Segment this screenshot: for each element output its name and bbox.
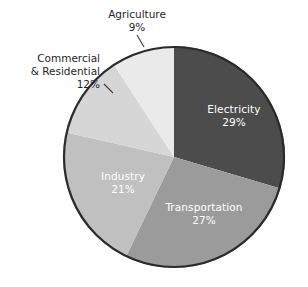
callout-label-commercial-residential: Commercial & Residential 12% [2,52,100,91]
callout-commercial-residential-line2: & Residential [2,65,100,78]
callout-agriculture-name: Agriculture [92,8,182,21]
callout-commercial-residential-value: 12% [2,78,100,91]
callout-label-agriculture: Agriculture 9% [92,8,182,34]
pie-chart-figure: Electricity 29% Transportation 27% Indus… [0,0,308,287]
leader-line-agriculture [137,35,144,47]
callout-commercial-residential-line1: Commercial [2,52,100,65]
callout-agriculture-value: 9% [92,21,182,34]
pie-chart-canvas [0,0,308,287]
